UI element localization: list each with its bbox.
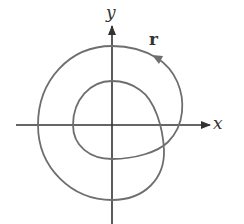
curve-r bbox=[38, 46, 182, 200]
y-axis-label: y bbox=[106, 2, 116, 22]
curve-label: r bbox=[149, 29, 158, 49]
diagram-canvas bbox=[0, 0, 244, 224]
direction-arrow-icon bbox=[152, 55, 163, 64]
x-axis-label: x bbox=[213, 113, 223, 133]
